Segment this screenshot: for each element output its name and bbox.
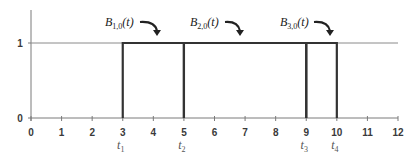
x-tick-label: 4 (151, 127, 157, 138)
x-tick-label: 5 (181, 127, 187, 138)
x-tick-label: 1 (59, 127, 65, 138)
annotations: B1,0(t)B2,0(t)B3,0(t) (105, 15, 334, 36)
arrow-icon (314, 22, 330, 31)
x-tick-label: 0 (28, 127, 34, 138)
y-tick-label: 1 (17, 38, 23, 49)
x-tick-label: 8 (273, 127, 279, 138)
knot-label-3: t3 (301, 138, 308, 154)
series-1-box (123, 43, 184, 118)
x-tick-label: 11 (362, 127, 373, 138)
basis-function-chart: B1,0(t)B2,0(t)B3,0(t) 0123456789101112 0… (0, 0, 415, 162)
arrow-icon (140, 22, 157, 31)
x-tick-label: 10 (331, 127, 343, 138)
series-2-label: B2,0(t) (190, 15, 219, 31)
arrow-icon (225, 22, 240, 31)
knot-label-2: t2 (178, 138, 185, 154)
x-tick-label: 12 (392, 127, 404, 138)
x-tick-labels: 0123456789101112 (28, 127, 404, 138)
series-1-label: B1,0(t) (105, 15, 134, 31)
knot-label-4: t4 (331, 138, 338, 154)
y-tick-labels: 01 (17, 38, 23, 124)
arrowhead-icon (326, 30, 334, 36)
x-tick-label: 6 (212, 127, 218, 138)
knot-label-1: t1 (117, 138, 124, 154)
series-3-box (306, 43, 337, 118)
arrowhead-icon (236, 30, 244, 36)
series-3-label: B3,0(t) (280, 15, 309, 31)
arrowhead-icon (153, 30, 161, 36)
series-group (123, 43, 337, 118)
x-tick-label: 9 (303, 127, 309, 138)
series-2-box (184, 43, 306, 118)
x-tick-label: 7 (242, 127, 248, 138)
y-tick-label: 0 (17, 113, 23, 124)
x-tick-label: 2 (89, 127, 95, 138)
knot-labels: t1t2t3t4 (117, 138, 338, 154)
x-tick-label: 3 (120, 127, 126, 138)
